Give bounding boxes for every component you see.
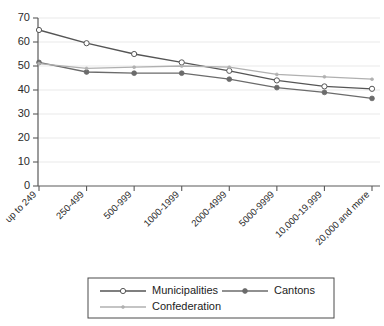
data-point-marker	[120, 288, 125, 293]
data-point-marker	[133, 66, 136, 69]
data-point-marker	[179, 71, 184, 76]
data-point-marker	[274, 85, 279, 90]
data-point-marker	[274, 78, 279, 83]
data-point-marker	[228, 66, 231, 69]
data-point-marker	[322, 90, 327, 95]
chart-figure: 010203040506070 up to 249250-499500-9991…	[0, 0, 384, 326]
x-tick-label: 500-999	[101, 189, 133, 221]
grid-lines	[38, 18, 380, 162]
y-tick-label: 20	[18, 131, 30, 143]
series-line	[39, 30, 372, 89]
y-tick-label: 10	[18, 155, 30, 167]
x-tick-label: 10,000-19,999	[273, 189, 324, 240]
legend-label[interactable]: Municipalities	[152, 284, 219, 296]
data-point-marker	[371, 78, 374, 81]
data-point-marker	[38, 62, 41, 65]
data-point-marker	[370, 96, 375, 101]
x-tick-label: 2000-4999	[189, 189, 229, 229]
data-point-marker	[322, 84, 327, 89]
x-axis-tick-labels: up to 249250-499500-9991000-19992000-499…	[3, 189, 372, 248]
data-point-marker	[180, 65, 183, 68]
data-point-marker	[85, 67, 88, 70]
x-axis-ticks	[39, 186, 372, 191]
data-point-marker	[132, 71, 137, 76]
x-tick-label: 1000-1999	[141, 189, 181, 229]
chart-legend: MunicipalitiesCantonsConfederation	[88, 278, 334, 318]
data-point-marker	[275, 73, 278, 76]
x-tick-label: 5000-9999	[236, 189, 276, 229]
data-point-marker	[84, 70, 89, 75]
data-point-marker	[36, 27, 41, 32]
x-tick-label: up to 249	[3, 189, 39, 225]
data-point-marker	[132, 51, 137, 56]
y-axis-ticks: 010203040506070	[18, 11, 38, 191]
data-point-marker	[122, 306, 125, 309]
data-point-marker	[323, 75, 326, 78]
y-tick-label: 60	[18, 35, 30, 47]
y-tick-label: 30	[18, 107, 30, 119]
data-point-marker	[369, 86, 374, 91]
legend-label[interactable]: Cantons	[274, 284, 315, 296]
data-point-marker	[243, 289, 248, 294]
data-point-marker	[227, 77, 232, 82]
series-municipalities	[36, 27, 374, 91]
x-tick-label: 250-499	[54, 189, 86, 221]
y-tick-label: 50	[18, 59, 30, 71]
y-tick-label: 70	[18, 11, 30, 23]
legend-label[interactable]: Confederation	[152, 300, 221, 312]
y-tick-label: 40	[18, 83, 30, 95]
line-chart-svg: 010203040506070 up to 249250-499500-9991…	[0, 0, 384, 326]
data-point-marker	[84, 41, 89, 46]
